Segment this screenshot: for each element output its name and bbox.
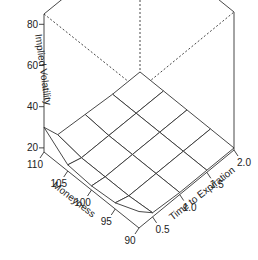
y-tick-label: 2.0 — [237, 157, 251, 168]
y-tick-label: 0.5 — [156, 224, 170, 235]
plot-svg: 20406080 9095100105110 0.51.01.52.0 Impl… — [0, 0, 258, 260]
z-tick-label: 40 — [27, 101, 39, 112]
x-tick — [111, 209, 115, 215]
x-tick — [135, 228, 139, 234]
z-tick-label: 20 — [27, 142, 39, 153]
y-tick — [207, 172, 211, 178]
z-tick-label: 60 — [27, 60, 39, 71]
iv-surface-plot: 20406080 9095100105110 0.51.01.52.0 Impl… — [0, 0, 258, 260]
y-tick — [234, 150, 238, 156]
y-tick — [153, 217, 157, 223]
box-edge-hidden — [139, 12, 234, 90]
box-edge — [44, 0, 140, 14]
x-tick-label: 110 — [27, 159, 43, 170]
z-tick-label: 80 — [27, 19, 39, 30]
x-tick-label: 95 — [101, 216, 113, 227]
x-tick — [40, 152, 44, 158]
box-edge-hidden — [44, 14, 139, 90]
x-tick-label: 90 — [124, 235, 136, 246]
box-edge — [140, 0, 234, 12]
x-tick — [64, 171, 68, 177]
x-tick — [88, 190, 92, 196]
